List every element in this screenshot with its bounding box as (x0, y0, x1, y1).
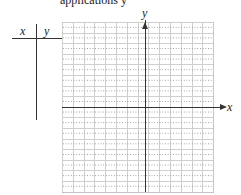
table-header-x: x (20, 24, 25, 39)
cut-off-heading: applications y (60, 0, 127, 8)
x-axis-arrow-icon (220, 104, 227, 110)
table-header-y: y (44, 24, 49, 39)
y-axis-label: y (142, 6, 147, 21)
y-axis (145, 20, 146, 192)
y-axis-arrow-icon (142, 22, 148, 29)
x-axis (62, 107, 222, 108)
x-axis-label: x (227, 100, 232, 115)
table-column-rule (36, 24, 37, 120)
